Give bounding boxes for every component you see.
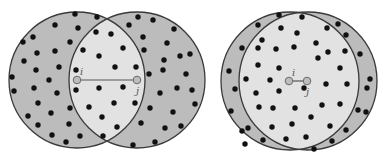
point-dot [25, 113, 30, 118]
point-dot [48, 110, 53, 115]
point-dot [291, 44, 296, 49]
point-dot [72, 11, 77, 16]
point-dot [132, 100, 137, 105]
point-dot [255, 22, 260, 27]
point-dot [178, 123, 183, 128]
point-dot [313, 40, 318, 45]
point-dot [21, 58, 26, 63]
point-dot [170, 109, 175, 114]
point-dot [20, 39, 25, 44]
point-dot [289, 121, 294, 126]
point-dot [120, 45, 125, 50]
figure-near-nodes: ij [221, 12, 377, 152]
point-dot [367, 76, 372, 81]
point-dot [56, 64, 61, 69]
point-dot [108, 31, 113, 36]
point-dot [162, 125, 167, 130]
point-dot [260, 137, 265, 142]
point-dot [324, 25, 329, 30]
point-dot [46, 77, 51, 82]
point-dot [67, 39, 72, 44]
point-dot [299, 14, 304, 19]
point-dot [325, 49, 330, 54]
point-dot [269, 124, 274, 129]
node-i [73, 76, 81, 84]
point-dot [147, 105, 152, 110]
point-dot [183, 71, 188, 76]
point-dot [130, 142, 135, 147]
point-dot [276, 65, 281, 70]
point-dot [255, 45, 260, 50]
node-i-label: i [80, 66, 83, 77]
point-dot [239, 45, 244, 50]
point-dot [52, 22, 57, 27]
point-dot [75, 25, 80, 30]
point-dot [267, 77, 272, 82]
point-dot [278, 25, 283, 30]
point-dot [283, 136, 288, 141]
point-dot [111, 100, 116, 105]
point-dot [255, 62, 260, 67]
point-dot [152, 139, 157, 144]
point-dot [343, 127, 348, 132]
point-dot [140, 34, 145, 39]
point-dot [49, 132, 54, 137]
point-dot [112, 64, 117, 69]
point-dot [256, 104, 261, 109]
point-dot [171, 26, 176, 31]
point-dot [276, 12, 281, 17]
point-dot [270, 105, 275, 110]
point-dot [86, 104, 91, 109]
point-dot [73, 87, 78, 92]
point-dot [138, 120, 143, 125]
point-dot [135, 14, 140, 19]
point-dot [80, 47, 85, 52]
point-dot [174, 85, 179, 90]
point-dot [161, 57, 166, 62]
point-dot [30, 34, 35, 39]
point-dot [192, 101, 197, 106]
point-dot [114, 124, 119, 129]
point-dot [337, 65, 342, 70]
point-dot [342, 48, 347, 53]
node-i [285, 77, 293, 85]
point-dot [54, 90, 59, 95]
point-dot [66, 121, 71, 126]
point-dot [157, 90, 162, 95]
point-dot [133, 64, 138, 69]
point-dot [337, 101, 342, 106]
point-dot [120, 84, 125, 89]
point-dot [364, 85, 369, 90]
point-dot [96, 85, 101, 90]
point-dot [73, 67, 78, 72]
point-dot [35, 100, 40, 105]
point-dot [11, 88, 16, 93]
point-dot [93, 29, 98, 34]
point-dot [33, 67, 38, 72]
point-dot [187, 51, 192, 56]
node-j [133, 76, 141, 84]
point-dot [146, 71, 151, 76]
point-dot [273, 46, 278, 51]
point-dot [357, 51, 362, 56]
point-dot [315, 55, 320, 60]
point-dot [329, 138, 334, 143]
point-dot [52, 48, 57, 53]
point-dot [164, 40, 169, 45]
point-dot [303, 134, 308, 139]
point-dot [239, 128, 244, 133]
point-dot [189, 87, 194, 92]
node-i-label: i [292, 67, 295, 78]
point-dot [294, 30, 299, 35]
point-dot [226, 68, 231, 73]
point-dot [327, 123, 332, 128]
point-dot [94, 14, 99, 19]
point-dot [9, 74, 14, 79]
point-dot [245, 125, 250, 130]
point-dot [363, 109, 368, 114]
point-dot [77, 133, 82, 138]
point-dot [319, 102, 324, 107]
point-dot [308, 114, 313, 119]
point-dot [63, 139, 68, 144]
point-dot [31, 85, 36, 90]
